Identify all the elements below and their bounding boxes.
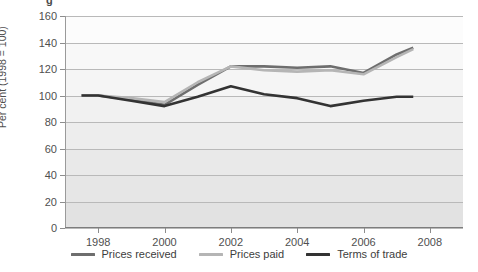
x-tick-label: 2006 [351,237,375,248]
y-tick-label: 20 [45,196,57,207]
legend-label: Prices paid [230,248,284,260]
legend-item: Terms of trade [306,248,407,260]
y-tick-label: 100 [39,90,57,101]
legend-item: Prices received [71,248,177,260]
plot-area: 020406080100120140160 199820002002200420… [65,16,463,228]
y-tick-label: 160 [39,11,57,22]
series-lines [65,16,463,228]
x-tick-mark [364,228,365,233]
y-tick-label: 0 [51,223,57,234]
legend-swatch-terms-of-trade [306,253,330,256]
y-tick-label: 40 [45,170,57,181]
x-tick-mark [430,228,431,233]
series-line-prices-paid [82,49,414,102]
x-tick-mark [231,228,232,233]
chart-legend: Prices receivedPrices paidTerms of trade [0,248,478,260]
x-tick-label: 2008 [418,237,442,248]
gridline [65,228,463,229]
y-tick-label: 80 [45,117,57,128]
x-tick-label: 1998 [86,237,110,248]
legend-label: Prices received [102,248,177,260]
legend-item: Prices paid [199,248,284,260]
legend-swatch-prices-paid [199,253,223,256]
series-line-terms-of-trade [82,86,414,106]
figure-top-fragment: g [46,0,53,6]
y-tick-label: 140 [39,37,57,48]
x-tick-label: 2000 [152,237,176,248]
chart-figure: g 020406080100120140160 1998200020022004… [0,0,478,272]
y-axis-label: Per cent (1998 = 100) [0,26,8,128]
x-tick-label: 2002 [219,237,243,248]
legend-swatch-prices-received [71,253,95,256]
y-tick-label: 60 [45,143,57,154]
y-tick-mark [60,228,65,229]
x-tick-mark [297,228,298,233]
series-line-prices-received [82,48,414,105]
y-tick-label: 120 [39,64,57,75]
x-tick-mark [165,228,166,233]
x-tick-mark [98,228,99,233]
legend-label: Terms of trade [337,248,407,260]
x-tick-label: 2004 [285,237,309,248]
